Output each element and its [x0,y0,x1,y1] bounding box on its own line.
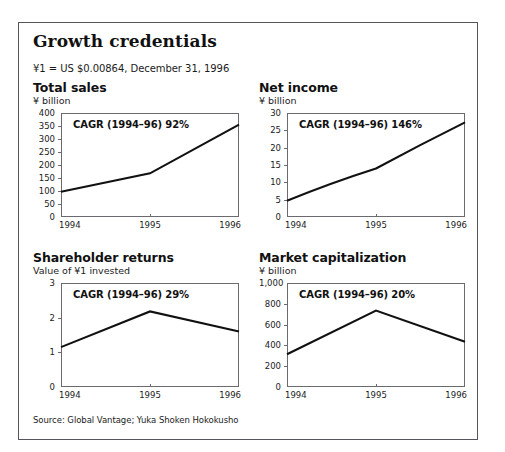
exchange-rate-note: ¥1 = US $0.00864, December 31, 1996 [33,63,229,74]
source-note: Source: Global Vantage; Yuka Shoken Hoko… [33,415,239,425]
figure-frame: Growth credentials ¥1 = US $0.00864, Dec… [18,22,478,440]
cagr-annotation: CAGR (1994–96) 29% [73,289,189,300]
chart-plot-market-capitalization: 02004006008001,000199419951996CAGR (1994… [259,279,471,403]
chart-subtitle: ¥ billion [33,95,245,106]
chart-title: Net income [259,81,471,94]
cagr-annotation: CAGR (1994–96) 146% [299,119,422,130]
chart-subtitle: Value of ¥1 invested [33,265,245,276]
chart-plot-net-income: 051015202530199419951996CAGR (1994–96) 1… [259,109,471,233]
chart-subtitle: ¥ billion [259,265,471,276]
chart-title: Total sales [33,81,245,94]
chart-plot-shareholder-returns: 0123199419951996CAGR (1994–96) 29% [33,279,245,403]
chart-plot-total-sales: 050100150200250300350400199419951996CAGR… [33,109,245,233]
chart-panel-net-income: Net income ¥ billion 0510152025301994199… [259,81,471,233]
cagr-annotation: CAGR (1994–96) 92% [73,119,189,130]
chart-panel-total-sales: Total sales ¥ billion 050100150200250300… [33,81,245,233]
chart-panel-shareholder-returns: Shareholder returns Value of ¥1 invested… [33,251,245,403]
chart-title: Shareholder returns [33,251,245,264]
cagr-annotation: CAGR (1994–96) 20% [299,289,415,300]
chart-title: Market capitalization [259,251,471,264]
chart-panel-market-capitalization: Market capitalization ¥ billion 02004006… [259,251,471,403]
chart-subtitle: ¥ billion [259,95,471,106]
page-title: Growth credentials [33,31,217,51]
